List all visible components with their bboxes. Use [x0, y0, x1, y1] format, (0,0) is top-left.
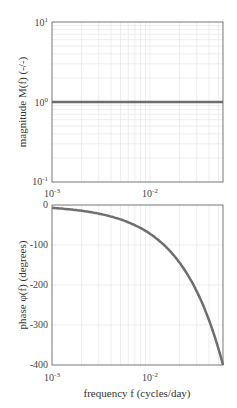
phase-line	[52, 208, 223, 365]
bottom-ytick-400: -400	[30, 359, 48, 370]
top-ytick-10^1: 101	[35, 16, 49, 28]
bottom-ytick-0: 0	[43, 199, 48, 210]
top-ylabel: magnitude M(f) (-/-)	[16, 56, 29, 147]
bode-plot: 101 100 10-1 10-3 10-2 0 -100 -200 -300 …	[0, 0, 237, 408]
top-xtick-10^-3: 10-3	[44, 187, 60, 199]
bottom-ytick-300: -300	[30, 319, 48, 330]
bottom-ytick-100: -100	[30, 239, 48, 250]
bottom-grid	[52, 205, 223, 365]
bottom-xtick-10^-3: 10-3	[44, 371, 60, 383]
bottom-ylabel: phase φ(f) (degrees)	[16, 240, 29, 329]
bottom-xtick-10^-2: 10-2	[142, 371, 158, 383]
xlabel: frequency f (cycles/day)	[84, 387, 191, 400]
top-ytick-10^-1: 10-1	[32, 175, 48, 187]
bottom-ytick-200: -200	[30, 279, 48, 290]
top-ytick-10^0: 100	[35, 96, 49, 108]
top-xtick-10^-2: 10-2	[142, 187, 158, 199]
